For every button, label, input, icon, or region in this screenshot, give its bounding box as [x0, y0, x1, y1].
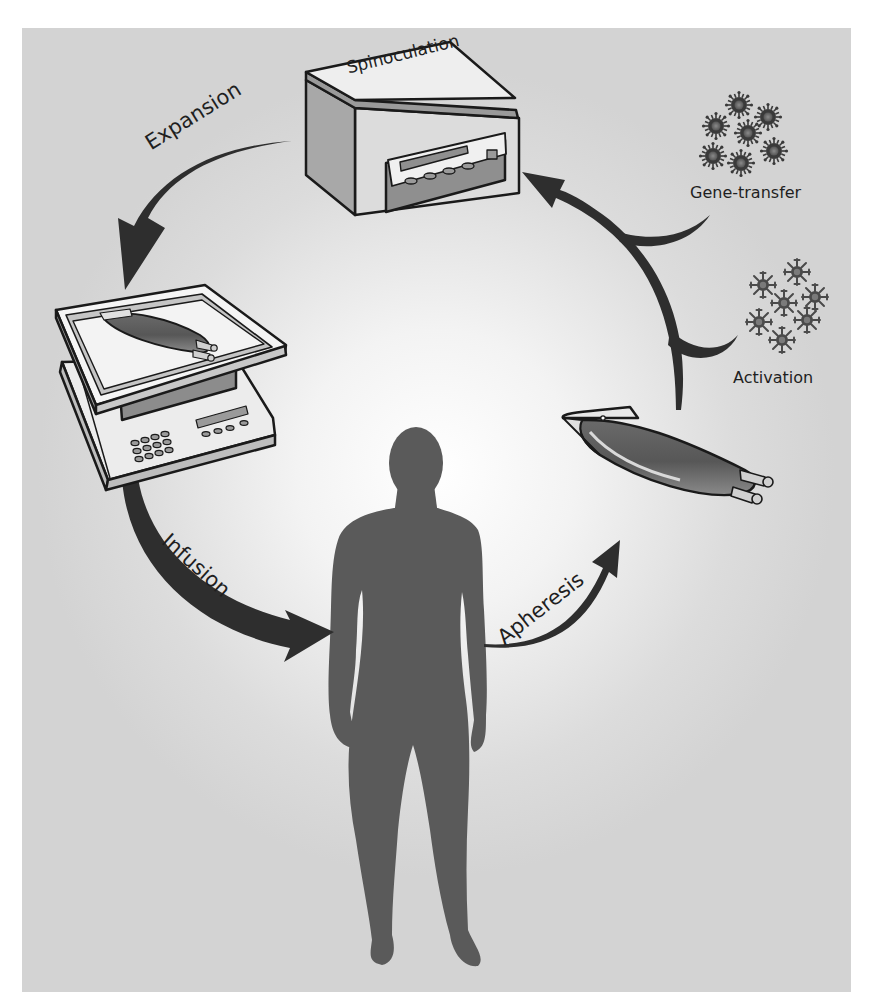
activation-label: Activation [733, 370, 813, 386]
rocking-platform-device [56, 285, 286, 490]
gene-transfer-vectors [699, 91, 788, 177]
transduction-arrow [522, 172, 738, 410]
activation-cells [746, 259, 828, 353]
patient-silhouette [329, 427, 487, 966]
infusion-arrow [122, 478, 334, 662]
centrifuge-device [306, 42, 519, 215]
gene-transfer-label: Gene-transfer [690, 185, 801, 201]
expansion-arrow [118, 141, 292, 290]
diagram-canvas [0, 0, 874, 1004]
blood-bag [563, 407, 773, 504]
